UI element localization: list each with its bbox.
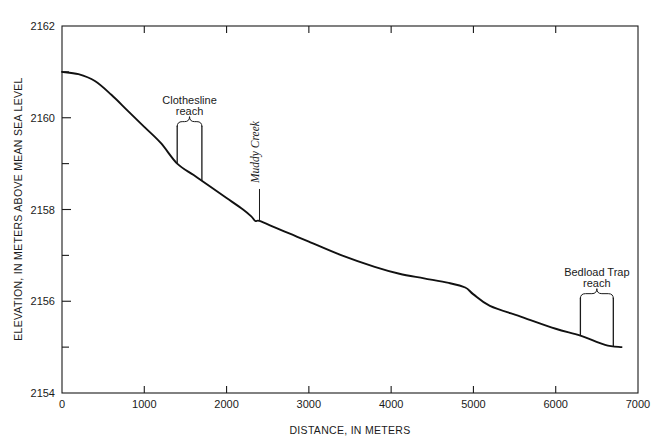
- y-axis-tick-labels: 21542156215821602162: [31, 20, 55, 399]
- profile-line-0: [62, 72, 622, 347]
- annotation-muddy-creek: Muddy Creek: [249, 120, 262, 221]
- bedload-trap-reach-label-line2: reach: [583, 277, 611, 289]
- bedload-trap-reach-brace: [580, 289, 613, 299]
- x-tick-label-1000: 1000: [132, 398, 156, 410]
- x-axis-tick-labels: 01000200030004000500060007000: [59, 398, 650, 410]
- x-tick-label-7000: 7000: [626, 398, 650, 410]
- x-tick-label-5000: 5000: [461, 398, 485, 410]
- y-tick-label-2156: 2156: [31, 295, 55, 307]
- x-axis-title: DISTANCE, IN METERS: [289, 424, 410, 436]
- x-axis-ticks-bottom: [144, 386, 555, 393]
- x-tick-label-6000: 6000: [543, 398, 567, 410]
- x-tick-label-0: 0: [59, 398, 65, 410]
- clothesline-reach-brace: [177, 117, 202, 127]
- y-tick-label-2162: 2162: [31, 20, 55, 32]
- x-tick-label-4000: 4000: [379, 398, 403, 410]
- y-axis-title: ELEVATION, IN METERS ABOVE MEAN SEA LEVE…: [12, 77, 24, 340]
- chart-figure: 01000200030004000500060007000 2154215621…: [0, 0, 666, 443]
- x-tick-label-3000: 3000: [297, 398, 321, 410]
- x-axis-ticks-top: [144, 26, 555, 33]
- clothesline-reach-label-line2: reach: [176, 105, 204, 117]
- y-tick-label-2158: 2158: [31, 204, 55, 216]
- y-axis-ticks-major: [62, 118, 71, 302]
- y-tick-label-2160: 2160: [31, 112, 55, 124]
- y-tick-label-2154: 2154: [31, 387, 55, 399]
- x-tick-label-2000: 2000: [214, 398, 238, 410]
- annotations-group: ClotheslinereachMuddy CreekBedload Trapr…: [162, 94, 629, 346]
- muddy-creek-label: Muddy Creek: [249, 120, 262, 184]
- stream-profile-chart: 01000200030004000500060007000 2154215621…: [0, 0, 666, 443]
- annotation-clothesline-reach: Clotheslinereach: [162, 94, 216, 181]
- data-series-group: [62, 72, 622, 347]
- plot-frame: [62, 26, 638, 393]
